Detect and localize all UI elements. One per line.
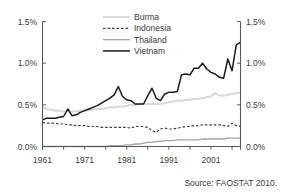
y-axis-right-tick-label: 1.0% — [246, 58, 266, 68]
legend-label-indonesia: Indonesia — [134, 23, 171, 33]
x-axis-tick-label: 1991 — [159, 155, 178, 165]
y-axis-right-tick-label: 0.0% — [246, 142, 266, 152]
y-axis-left-tick-label: 1.0% — [18, 58, 38, 68]
legend-label-vietnam: Vietnam — [134, 46, 165, 56]
y-axis-right-tick-label: 1.5% — [246, 17, 266, 27]
legend-label-burma: Burma — [134, 12, 159, 22]
chart-container: 0.0%0.5%1.0%1.5% 0.0%0.5%1.0%1.5% 196119… — [0, 0, 285, 194]
y-axis-left-tick-label: 1.5% — [18, 17, 38, 27]
y-axis-right-tick-label: 0.5% — [246, 100, 266, 110]
legend-label-thailand: Thailand — [134, 35, 167, 45]
x-axis-tick-label: 1971 — [75, 155, 94, 165]
y-axis-left-tick-label: 0.5% — [18, 100, 38, 110]
y-axis-left-tick-label: 0.0% — [18, 142, 38, 152]
source-note: Source: FAOSTAT 2010. — [184, 178, 277, 188]
x-axis-tick-label: 1981 — [117, 155, 136, 165]
x-axis-tick-label: 2001 — [202, 155, 221, 165]
line-chart: 0.0%0.5%1.0%1.5% 0.0%0.5%1.0%1.5% 196119… — [0, 0, 285, 194]
x-axis-tick-label: 1961 — [33, 155, 52, 165]
